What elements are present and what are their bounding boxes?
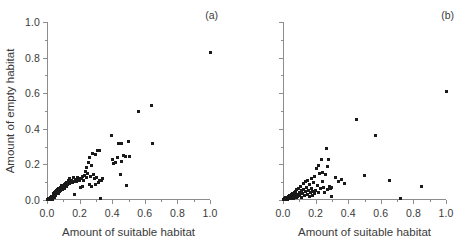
panel-b-plot-area: 0.00.20.40.60.81.0 bbox=[283, 22, 446, 200]
panel-a-data-point bbox=[120, 160, 123, 163]
panel-a-data-point bbox=[85, 176, 88, 179]
panel-a-y-tick-minor bbox=[45, 40, 47, 41]
panel-b-data-point bbox=[363, 174, 366, 177]
panel-b-x-tick-label: 0.6 bbox=[373, 207, 388, 219]
panel-a-x-tick-minor bbox=[129, 200, 130, 202]
panel-a-y-tick-label: 0.2 bbox=[25, 158, 40, 170]
panel-b-y-tick bbox=[279, 93, 283, 94]
panel-a-y-tick bbox=[43, 164, 47, 165]
panel-a-x-tick-minor bbox=[194, 200, 195, 202]
panel-a-data-point bbox=[88, 156, 91, 159]
panel-b-x-tick-minor bbox=[299, 200, 300, 202]
panel-b-x-tick-label: 0.4 bbox=[341, 207, 356, 219]
panel-b-data-point bbox=[355, 118, 358, 121]
panel-b-data-point bbox=[317, 164, 320, 167]
panel-b-x-tick bbox=[413, 200, 414, 204]
panel-a-data-point bbox=[81, 185, 84, 188]
panel-b-data-point bbox=[313, 192, 316, 195]
panel-b-data-point bbox=[374, 134, 377, 137]
panel-a-data-point bbox=[90, 164, 93, 167]
panel-a-x-tick-minor bbox=[161, 200, 162, 202]
panel-a-tag: (a) bbox=[205, 9, 218, 21]
panel-b-data-point bbox=[399, 197, 402, 200]
panel-a-y-tick bbox=[43, 58, 47, 59]
panel-b-data-point bbox=[310, 177, 313, 180]
panel-b-y-tick-minor bbox=[281, 111, 283, 112]
panel-a-data-point bbox=[73, 193, 76, 196]
panel-a-y-tick-minor bbox=[45, 111, 47, 112]
panel-b-data-point bbox=[313, 175, 316, 178]
panel-a-x-tick-label: 0.2 bbox=[72, 207, 87, 219]
panel-b-x-tick bbox=[381, 200, 382, 204]
panel-b-data-point bbox=[445, 90, 448, 93]
panel-a: (a) Amount of empty habitat Amount of su… bbox=[0, 0, 236, 252]
panel-b-data-point bbox=[330, 186, 333, 189]
panel-b-y-tick bbox=[279, 58, 283, 59]
panel-a-x-tick bbox=[210, 200, 211, 204]
panel-b-data-point bbox=[326, 165, 329, 168]
panel-b-y-tick bbox=[279, 22, 283, 23]
panel-b-data-point bbox=[320, 158, 323, 161]
panel-b-y-tick bbox=[279, 164, 283, 165]
panel-a-y-tick-label: 0.6 bbox=[25, 87, 40, 99]
panel-b-x-tick-label: 0.8 bbox=[406, 207, 421, 219]
panel-a-x-tick-label: 0.8 bbox=[170, 207, 185, 219]
panel-b-data-point bbox=[327, 158, 330, 161]
panel-a-y-axis-title: Amount of empty habitat bbox=[4, 49, 16, 174]
panel-a-x-tick-label: 0.6 bbox=[137, 207, 152, 219]
panel-a-x-tick-label: 0.4 bbox=[105, 207, 120, 219]
panel-a-x-tick-label: 1.0 bbox=[203, 207, 218, 219]
panel-a-data-point bbox=[94, 153, 97, 156]
panel-b: (b) Amount of suitable habitat 0.00.20.4… bbox=[236, 0, 472, 252]
panel-b-x-axis-title: Amount of suitable habitat bbox=[283, 226, 446, 238]
panel-b-y-tick bbox=[279, 129, 283, 130]
panel-a-x-tick bbox=[80, 200, 81, 204]
panel-a-data-point bbox=[98, 149, 101, 152]
panel-a-y-tick-minor bbox=[45, 75, 47, 76]
panel-b-x-tick-minor bbox=[365, 200, 366, 202]
panel-a-y-tick-minor bbox=[45, 182, 47, 183]
panel-b-y-axis-line bbox=[283, 22, 284, 200]
panel-b-data-point bbox=[315, 167, 318, 170]
panel-a-data-point bbox=[137, 110, 140, 113]
panel-a-x-tick-label: 0.0 bbox=[40, 207, 55, 219]
panel-a-data-point bbox=[95, 176, 98, 179]
panel-a-x-tick bbox=[177, 200, 178, 204]
panel-a-x-tick bbox=[145, 200, 146, 204]
panel-a-data-point bbox=[120, 142, 123, 145]
panel-b-tag: (b) bbox=[441, 9, 454, 21]
panel-a-data-point bbox=[99, 197, 102, 200]
panel-a-data-point bbox=[124, 155, 127, 158]
panel-a-data-point bbox=[151, 142, 154, 145]
panel-a-y-tick-minor bbox=[45, 147, 47, 148]
panel-b-data-point bbox=[325, 147, 328, 150]
panel-b-x-tick bbox=[316, 200, 317, 204]
panel-a-y-tick bbox=[43, 129, 47, 130]
panel-b-data-point bbox=[324, 173, 327, 176]
panel-a-x-tick bbox=[112, 200, 113, 204]
panel-b-data-point bbox=[323, 191, 326, 194]
panel-a-x-tick-minor bbox=[96, 200, 97, 202]
panel-b-x-tick-minor bbox=[430, 200, 431, 202]
panel-a-x-axis-title: Amount of suitable habitat bbox=[47, 226, 210, 238]
panel-a-data-point bbox=[119, 173, 122, 176]
panel-a-data-point bbox=[114, 161, 117, 164]
panel-a-data-point bbox=[150, 104, 153, 107]
panel-a-y-tick bbox=[43, 22, 47, 23]
panel-a-data-point bbox=[125, 184, 128, 187]
panel-b-x-tick-label: 0.0 bbox=[276, 207, 291, 219]
panel-a-x-tick-minor bbox=[63, 200, 64, 202]
panel-b-y-tick-minor bbox=[281, 182, 283, 183]
panel-b-y-tick-minor bbox=[281, 40, 283, 41]
panel-a-y-tick-label: 0.0 bbox=[25, 194, 40, 206]
panel-a-data-point bbox=[209, 51, 212, 54]
panel-a-y-tick bbox=[43, 93, 47, 94]
panel-a-data-point bbox=[85, 166, 88, 169]
panel-b-data-point bbox=[420, 185, 423, 188]
panel-a-data-point bbox=[101, 177, 104, 180]
panel-b-data-point bbox=[312, 181, 315, 184]
panel-b-x-tick bbox=[348, 200, 349, 204]
panel-a-data-point bbox=[116, 156, 119, 159]
panel-b-data-point bbox=[330, 195, 333, 198]
panel-b-x-tick bbox=[446, 200, 447, 204]
